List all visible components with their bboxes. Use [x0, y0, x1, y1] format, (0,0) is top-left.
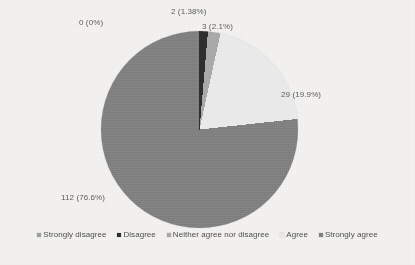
pie-chart-plot-area — [101, 31, 298, 228]
legend-item-label: Strongly agree — [325, 230, 378, 239]
legend-item[interactable]: Agree — [280, 230, 308, 239]
legend-swatch-icon — [319, 233, 323, 237]
legend-item-label: Neither agree nor disagree — [173, 230, 269, 239]
legend-item[interactable]: Disagree — [117, 230, 155, 239]
pie-chart-disc[interactable] — [101, 31, 298, 228]
legend-swatch-icon — [117, 233, 121, 237]
legend-swatch-icon — [37, 233, 41, 237]
legend-item-label: Agree — [286, 230, 308, 239]
legend-swatch-icon — [280, 233, 284, 237]
legend-item-label: Strongly disagree — [43, 230, 106, 239]
data-label-disagree: 2 (1.38%) — [171, 7, 207, 16]
legend-item[interactable]: Strongly disagree — [37, 230, 106, 239]
data-label-strongly-agree: 112 (76.6%) — [61, 193, 105, 202]
legend-item-label: Disagree — [123, 230, 155, 239]
data-label-strongly-disagree: 0 (0%) — [79, 18, 103, 27]
legend-item[interactable]: Neither agree nor disagree — [167, 230, 269, 239]
chart-legend: Strongly disagreeDisagreeNeither agree n… — [0, 230, 415, 239]
data-label-agree: 29 (19.9%) — [281, 90, 321, 99]
legend-swatch-icon — [167, 233, 171, 237]
legend-item[interactable]: Strongly agree — [319, 230, 378, 239]
pie-chart-figure: 0 (0%) 2 (1.38%) 3 (2.1%) 29 (19.9%) 112… — [0, 0, 415, 265]
data-label-neither-agree-nor-disagree: 3 (2.1%) — [202, 22, 233, 31]
